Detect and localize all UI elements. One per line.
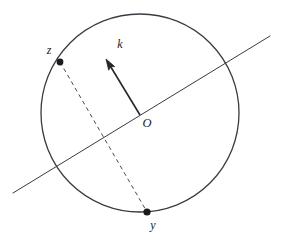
label-k: k	[117, 37, 123, 51]
main-circle-shape	[41, 14, 239, 212]
vector-k-shaft	[110, 66, 140, 115]
diagram-canvas: z y k O	[0, 0, 285, 241]
vector-k-arrowhead	[106, 59, 115, 70]
label-O: O	[142, 116, 151, 130]
circle-geometry-figure: z y k O	[0, 0, 285, 241]
secant-line-shape	[13, 36, 270, 193]
chord-z-to-y-shape	[60, 62, 147, 212]
point-z-marker	[57, 59, 64, 66]
label-z: z	[46, 43, 52, 57]
point-y-marker	[143, 208, 150, 215]
label-y: y	[149, 218, 156, 232]
